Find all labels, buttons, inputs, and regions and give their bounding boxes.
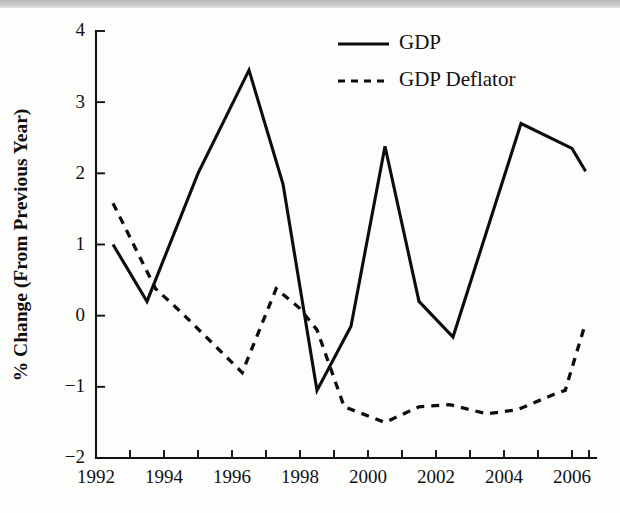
chart-svg: 43210−1−2 199219941996199820002002200420…: [0, 0, 620, 513]
y-axis-title: % Change (From Previous Year): [10, 109, 32, 382]
x-tick-label: 1992: [77, 466, 115, 487]
y-tick-label: 2: [76, 162, 86, 183]
series-line-gdp: [113, 70, 586, 390]
legend-label-gdp-deflator: GDP Deflator: [399, 67, 515, 91]
y-tick-label: 4: [76, 19, 86, 40]
chart-legend: GDP GDP Deflator: [338, 30, 515, 91]
y-tick-label: 0: [76, 304, 86, 325]
x-tick-label: 2002: [417, 466, 455, 487]
x-tick-label: 2006: [553, 466, 591, 487]
y-axis-tick-labels: 43210−1−2: [65, 19, 86, 467]
y-tick-label: −1: [65, 375, 85, 396]
data-series-group: [113, 70, 586, 422]
x-axis: 19921994199619982000200220042006: [77, 450, 596, 487]
x-tick-label: 1998: [281, 466, 319, 487]
x-tick-label: 2000: [349, 466, 387, 487]
y-tick-label: 3: [76, 91, 86, 112]
gdp-and-deflator-line-chart: 43210−1−2 199219941996199820002002200420…: [0, 0, 620, 513]
x-axis-tick-marks: [96, 450, 589, 458]
y-axis-tick-marks: [96, 31, 105, 458]
x-tick-label: 1994: [145, 466, 184, 487]
y-tick-label: −2: [65, 446, 85, 467]
y-axis-title-group: % Change (From Previous Year): [10, 109, 32, 382]
legend-label-gdp: GDP: [399, 30, 441, 54]
x-axis-tick-labels: 19921994199619982000200220042006: [77, 466, 591, 487]
x-tick-label: 2004: [485, 466, 524, 487]
series-line-gdp-deflator: [113, 203, 586, 422]
y-axis: 43210−1−2: [65, 19, 105, 467]
x-tick-label: 1996: [213, 466, 251, 487]
y-tick-label: 1: [76, 233, 86, 254]
